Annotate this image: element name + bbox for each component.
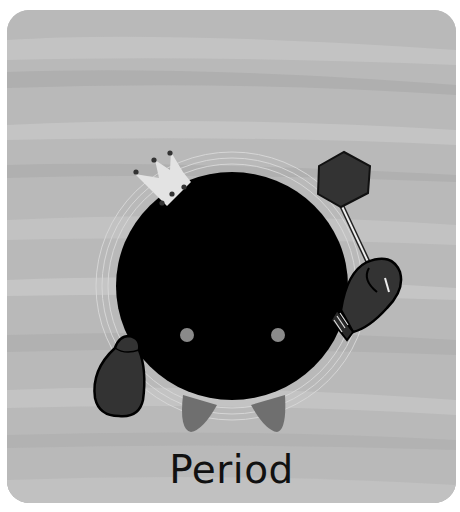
- flashcard: Period: [7, 10, 456, 503]
- card-illustration: [7, 10, 456, 503]
- card-caption: Period: [7, 447, 456, 492]
- right-eye: [271, 328, 285, 342]
- character-body: [116, 172, 348, 400]
- left-eye: [180, 328, 194, 342]
